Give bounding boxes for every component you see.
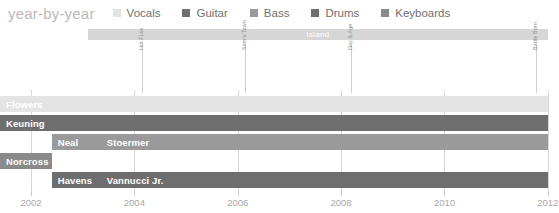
legend-label: Drums	[325, 7, 359, 19]
album-marker-label: Battle Born	[532, 22, 538, 50]
timeline-bar[interactable]: Keuning	[0, 115, 548, 131]
legend-label: Bass	[264, 7, 290, 19]
album-marker-line	[142, 45, 143, 93]
timeline-bar-label: Norcross	[0, 156, 49, 167]
album-marker-line	[351, 45, 352, 93]
page-title: year-by-year	[8, 5, 95, 22]
album-marker-line	[245, 45, 246, 93]
timeline-bar[interactable]: Vannucci Jr.	[101, 172, 548, 188]
legend-swatch-icon	[250, 9, 258, 17]
gridline	[548, 90, 549, 191]
timeline-bar[interactable]: Flowers	[0, 96, 548, 112]
year-by-year-timeline-chart: year-by-year VocalsGuitarBassDrumsKeyboa…	[0, 0, 559, 213]
album-marker-label: Sam's Town	[241, 20, 247, 50]
chart-legend: year-by-year VocalsGuitarBassDrumsKeyboa…	[0, 0, 559, 26]
legend-item-keyboards[interactable]: Keyboards	[381, 7, 450, 19]
legend-swatch-icon	[311, 9, 319, 17]
timeline-bar[interactable]: Neal	[52, 134, 101, 150]
album-marker-label: Day & Age	[347, 24, 353, 50]
axis-tick	[341, 191, 342, 196]
axis-tick	[134, 191, 135, 196]
legend-item-drums[interactable]: Drums	[311, 7, 359, 19]
timeline-bar[interactable]: Stoermer	[101, 134, 548, 150]
album-marker-label: Hot Fuss	[138, 28, 144, 50]
legend-label: Guitar	[196, 7, 227, 19]
axis-tick	[31, 191, 32, 196]
legend-swatch-icon	[113, 9, 121, 17]
axis-tick-label: 2012	[537, 197, 558, 208]
record-label-band: Island	[88, 29, 548, 40]
legend-swatch-icon	[381, 9, 389, 17]
legend-item-bass[interactable]: Bass	[250, 7, 290, 19]
legend-label: Keyboards	[395, 7, 450, 19]
axis-tick-label: 2006	[227, 197, 248, 208]
record-label-text: Island	[306, 30, 329, 39]
legend-items: VocalsGuitarBassDrumsKeyboards	[113, 7, 473, 19]
timeline-bar[interactable]: Norcross	[0, 153, 52, 169]
legend-item-vocals[interactable]: Vocals	[113, 7, 161, 19]
timeline-bar-label: Havens	[52, 175, 92, 186]
timeline-bar-label: Neal	[52, 137, 78, 148]
timeline-bar-label: Flowers	[0, 99, 43, 110]
axis-tick-label: 2002	[20, 197, 41, 208]
legend-swatch-icon	[182, 9, 190, 17]
axis-tick	[548, 191, 549, 196]
timeline-bar-label: Stoermer	[101, 137, 150, 148]
timeline-bar-label: Keuning	[0, 118, 45, 129]
legend-label: Vocals	[127, 7, 161, 19]
album-marker-line	[536, 45, 537, 93]
axis-tick-label: 2008	[331, 197, 352, 208]
legend-item-guitar[interactable]: Guitar	[182, 7, 227, 19]
axis-tick-label: 2004	[124, 197, 145, 208]
axis-tick	[444, 191, 445, 196]
timeline-bar-label: Vannucci Jr.	[101, 175, 164, 186]
axis-tick-label: 2010	[434, 197, 455, 208]
axis-tick	[238, 191, 239, 196]
timeline-bar[interactable]: Havens	[52, 172, 101, 188]
